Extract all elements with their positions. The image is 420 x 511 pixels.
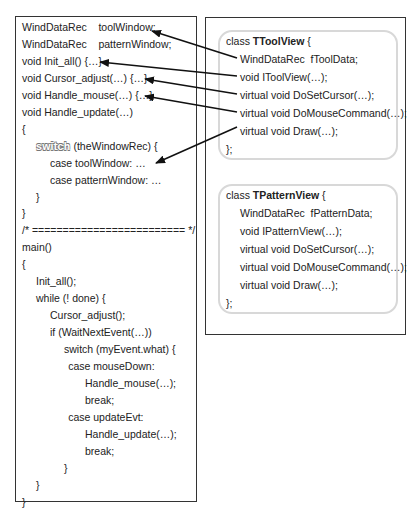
code-line: main() [22, 241, 52, 253]
code-text: Handle_update(…); [85, 428, 177, 440]
code-text: switch (myEvent.what) { [64, 343, 175, 355]
code-text: } [22, 207, 26, 219]
code-text: case updateEvt: [68, 411, 143, 423]
code-line: } [22, 496, 26, 508]
code-line: void Handle_update(…) [22, 106, 133, 118]
code-line: break; [85, 394, 114, 406]
code-line: Handle_update(…); [85, 428, 177, 440]
code-text: main() [22, 241, 52, 253]
code-text: break; [85, 445, 114, 457]
code-line: case toolWindow: … [50, 157, 146, 169]
code-line: Handle_mouse(…); [85, 377, 176, 389]
code-line: } [36, 479, 40, 491]
code-text: WindDataRec patternWindow; [22, 38, 171, 50]
code-line: if (WaitNextEvent(…)) [50, 326, 152, 338]
code-line: case mouseDown: [68, 360, 154, 372]
code-text: break; [85, 394, 114, 406]
code-text: (theWindowRec) { [70, 140, 157, 152]
class-member: virtual void Draw(…); [240, 279, 338, 291]
code-line: } [36, 191, 40, 203]
class-member: void IPatternView(…); [240, 225, 342, 237]
code-line: void Handle_mouse(…) {…} [22, 89, 153, 101]
class-member: virtual void DoSetCursor(…); [240, 243, 374, 255]
class-member: virtual void DoMouseCommand(…); [240, 261, 407, 273]
code-line: } [64, 462, 68, 474]
code-line: /* ========================= */ [22, 224, 195, 236]
keyword-switch: switch [36, 140, 70, 152]
code-text: { [22, 123, 26, 135]
code-line: void Cursor_adjust(…) {…} [22, 72, 147, 84]
class-close: }; [226, 297, 232, 309]
code-line: { [22, 258, 26, 270]
code-line: break; [85, 445, 114, 457]
code-line: switch (theWindowRec) { [36, 140, 157, 152]
code-text: Handle_mouse(…); [85, 377, 176, 389]
class-name: TPatternView [253, 189, 319, 201]
class-member: virtual void Draw(…); [240, 125, 338, 137]
code-line: } [22, 207, 26, 219]
code-line: Cursor_adjust(); [50, 309, 125, 321]
code-text: void Handle_update(…) [22, 106, 133, 118]
code-line: Init_all(); [36, 275, 76, 287]
code-text: void Init_all() {…} [22, 55, 102, 67]
code-text: { [22, 258, 26, 270]
class-member: virtual void DoSetCursor(…); [240, 89, 374, 101]
code-text: } [64, 462, 68, 474]
code-text: } [36, 479, 40, 491]
code-text: WindDataRec toolWindow; [22, 21, 156, 33]
class-close: }; [226, 143, 232, 155]
code-text: } [22, 496, 26, 508]
class-member: void IToolView(…); [240, 71, 327, 83]
class-header-text: { [304, 35, 310, 47]
code-line: void Init_all() {…} [22, 55, 102, 67]
code-text: case mouseDown: [68, 360, 154, 372]
code-line: { [22, 123, 26, 135]
code-text: } [36, 191, 40, 203]
class-member: WindDataRec fPatternData; [240, 207, 372, 219]
code-text: if (WaitNextEvent(…)) [50, 326, 152, 338]
code-text: /* ========================= */ [22, 224, 195, 236]
code-line: while (! done) { [36, 292, 105, 304]
class-member: virtual void DoMouseCommand(…); [240, 107, 407, 119]
code-text: case toolWindow: … [50, 157, 146, 169]
code-text: void Cursor_adjust(…) {…} [22, 72, 147, 84]
code-line: WindDataRec toolWindow; [22, 21, 156, 33]
code-line: case patternWindow: … [50, 174, 161, 186]
class-header-text: class [226, 35, 253, 47]
code-text: Init_all(); [36, 275, 76, 287]
class-header: class TPatternView { [226, 189, 326, 201]
code-line: case updateEvt: [68, 411, 143, 423]
code-text: while (! done) { [36, 292, 105, 304]
code-line: switch (myEvent.what) { [64, 343, 175, 355]
class-member: WindDataRec fToolData; [240, 53, 358, 65]
code-text: case patternWindow: … [50, 174, 161, 186]
code-text: void Handle_mouse(…) {…} [22, 89, 153, 101]
class-header-text: class [226, 189, 253, 201]
code-line: WindDataRec patternWindow; [22, 38, 171, 50]
class-header: class TToolView { [226, 35, 311, 47]
class-name: TToolView [253, 35, 305, 47]
class-header-text: { [319, 189, 325, 201]
code-text: Cursor_adjust(); [50, 309, 125, 321]
